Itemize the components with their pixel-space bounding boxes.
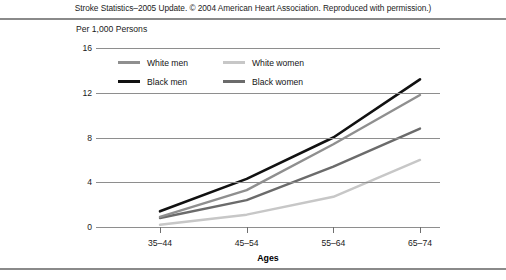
figure-container: Stroke Statistics–2005 Update. © 2004 Am…: [0, 0, 506, 280]
figure-caption: Stroke Statistics–2005 Update. © 2004 Am…: [0, 0, 506, 18]
gridline: 8: [96, 138, 440, 139]
gridline: 12: [96, 93, 440, 94]
series-line-white-men: [160, 95, 420, 217]
legend-label: Black men: [147, 77, 187, 87]
legend-item-black-women: Black women: [223, 77, 303, 87]
y-axis-tick-label: 8: [87, 133, 92, 143]
legend-swatch-icon: [223, 80, 245, 83]
y-axis-tick-label: 12: [82, 88, 92, 98]
y-axis-unit-title: Per 1,000 Persons: [76, 24, 147, 34]
x-axis-tick-label: 45–54: [235, 238, 259, 248]
legend-label: White women: [252, 58, 304, 68]
x-axis-title: Ages: [257, 253, 279, 263]
legend-item-white-women: White women: [223, 58, 304, 68]
chart-legend: White men White women Black men Black wo…: [118, 53, 338, 91]
series-line-white-women: [160, 160, 420, 225]
y-axis-tick-label: 16: [82, 43, 92, 53]
legend-label: White men: [147, 58, 188, 68]
gridline: 16: [96, 48, 440, 49]
y-axis-tick-label: 0: [87, 222, 92, 232]
legend-label: Black women: [252, 77, 303, 87]
gridline: 0: [96, 227, 440, 228]
x-axis-tick-label: 35–44: [148, 238, 172, 248]
x-axis-tick-label: 55–64: [321, 238, 345, 248]
x-axis-tick: [333, 227, 334, 233]
gridline: 4: [96, 182, 440, 183]
bottom-divider: [0, 268, 506, 270]
top-divider: [0, 18, 506, 20]
y-axis-tick-label: 4: [87, 177, 92, 187]
x-axis-tick: [420, 227, 421, 233]
legend-item-black-men: Black men: [118, 77, 223, 87]
legend-row: White men White women: [118, 53, 338, 72]
x-axis-tick: [160, 227, 161, 233]
legend-swatch-icon: [118, 61, 140, 64]
x-axis-tick-label: 65–74: [408, 238, 432, 248]
x-axis-tick: [247, 227, 248, 233]
legend-swatch-icon: [118, 80, 140, 83]
legend-item-white-men: White men: [118, 58, 223, 68]
legend-row: Black men Black women: [118, 72, 338, 91]
legend-swatch-icon: [223, 61, 245, 64]
